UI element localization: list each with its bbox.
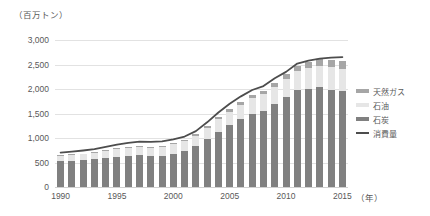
- x-axis-tick-label: 2005: [220, 191, 239, 201]
- legend-swatch-icon: [356, 89, 369, 93]
- legend-swatch-icon: [356, 103, 369, 107]
- x-axis-tick-label: 1990: [51, 191, 70, 201]
- legend-label: 石炭: [373, 114, 389, 125]
- legend-item[interactable]: 石油: [356, 98, 428, 112]
- legend-label: 消費量: [373, 128, 397, 139]
- plot-area: [55, 40, 348, 187]
- y-axis-tick-label: 2,500: [28, 60, 49, 70]
- legend-item[interactable]: 消費量: [356, 126, 428, 140]
- legend-swatch-icon: [356, 117, 369, 121]
- y-axis-unit-label: （百万トン）: [14, 8, 68, 20]
- y-axis-tick-label: 3,000: [28, 35, 49, 45]
- legend-item[interactable]: 天然ガス: [356, 84, 428, 98]
- legend-label: 天然ガス: [373, 86, 405, 97]
- energy-consumption-chart: （百万トン） 3,0002,5002,0001,5001,0005000 199…: [0, 0, 430, 216]
- x-axis-unit-label: （年）: [356, 191, 383, 203]
- legend-label: 石油: [373, 100, 389, 111]
- x-axis-tick-label: 2000: [164, 191, 183, 201]
- chart-legend: 天然ガス石油石炭消費量: [356, 84, 428, 140]
- y-axis-tick-label: 1,000: [28, 133, 49, 143]
- y-axis-tick-label: 0: [44, 182, 49, 192]
- x-axis-tick-label: 2010: [277, 191, 296, 201]
- legend-swatch-icon: [356, 132, 369, 134]
- consumption-line-series: [55, 40, 348, 187]
- gridline: [55, 187, 348, 188]
- y-axis-tick-label: 500: [35, 158, 49, 168]
- y-axis-tick-label: 2,000: [28, 84, 49, 94]
- x-axis-tick-label: 2015: [333, 191, 352, 201]
- legend-item[interactable]: 石炭: [356, 112, 428, 126]
- x-axis-tick-label: 1995: [108, 191, 127, 201]
- y-axis-tick-label: 1,500: [28, 109, 49, 119]
